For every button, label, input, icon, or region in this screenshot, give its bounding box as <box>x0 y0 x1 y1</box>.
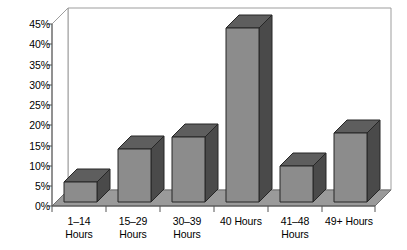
bar-front-face <box>118 149 151 202</box>
y-axis-label-45: 45% <box>4 19 50 29</box>
bar-side-face <box>259 15 272 202</box>
y-axis-label-5: 5% <box>4 181 50 191</box>
chart-canvas <box>0 0 407 250</box>
bar-side-face <box>205 124 218 202</box>
bar-front-face <box>64 182 97 202</box>
y-axis-label-30: 30% <box>4 80 50 90</box>
bar-41-48-hours <box>280 153 326 202</box>
bar-40-hours <box>226 15 272 202</box>
y-axis-label-15: 15% <box>4 141 50 151</box>
x-axis-label-49-plus-hours: 49+ Hours <box>318 215 380 228</box>
x-axis-label-41-48-hours: 41–48 Hours <box>268 215 322 240</box>
y-axis-label-35: 35% <box>4 60 50 70</box>
x-axis-ticks <box>52 206 375 212</box>
y-axis-label-10: 10% <box>4 161 50 171</box>
y-axis-ticks <box>47 24 52 206</box>
left-wall <box>52 8 68 206</box>
bar-49-plus-hours <box>334 120 380 202</box>
x-axis-label-40-hours: 40 Hours <box>210 215 272 228</box>
plot-area: 45% 40% 35% 30% 25% 20% 15% 10% 5% 0% 1–… <box>0 0 407 250</box>
y-axis-label-20: 20% <box>4 120 50 130</box>
bar-30-39-hours <box>172 124 218 202</box>
x-axis-label-30-39-hours: 30–39 Hours <box>160 215 214 240</box>
bar-front-face <box>226 28 259 202</box>
bar-15-29-hours <box>118 136 164 202</box>
bar-front-face <box>334 133 367 202</box>
bar-chart: 45% 40% 35% 30% 25% 20% 15% 10% 5% 0% 1–… <box>0 0 407 250</box>
bar-side-face <box>367 120 380 202</box>
y-axis-label-0: 0% <box>4 201 50 211</box>
x-axis-label-15-29-hours: 15–29 Hours <box>106 215 160 240</box>
bar-front-face <box>172 137 205 202</box>
bar-front-face <box>280 166 313 202</box>
x-axis-label-1-14-hours: 1–14 Hours <box>52 215 106 240</box>
y-axis-label-40: 40% <box>4 39 50 49</box>
y-axis-label-25: 25% <box>4 100 50 110</box>
